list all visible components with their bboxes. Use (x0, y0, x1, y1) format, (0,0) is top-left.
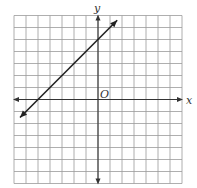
plotted-line (20, 20, 117, 117)
origin-label: O (100, 88, 109, 101)
coordinate-plane: x y O (0, 0, 197, 188)
y-axis-label: y (93, 2, 101, 15)
x-axis-label: x (186, 94, 193, 107)
line-y-equals-x-plus-5 (20, 20, 117, 117)
